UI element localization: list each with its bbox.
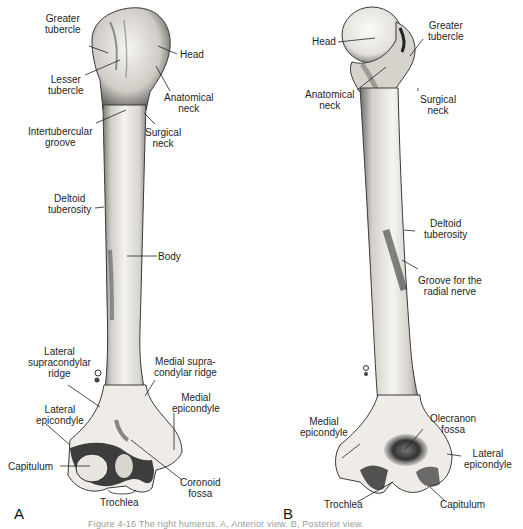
label-anatomical-neck-b: Anatomical neck	[305, 89, 354, 111]
label-lateral-supracondylar-ridge-a: Lateral supracondylar ridge	[28, 346, 91, 379]
label-intertubercular-groove-a: Intertubercular groove	[28, 126, 92, 148]
label-medial-epicondyle-a: Medial epicondyle	[172, 392, 220, 414]
label-trochlea-a: Trochlea	[100, 497, 139, 508]
humerus-anterior	[68, 8, 182, 492]
label-capitulum-b: Capitulum	[440, 499, 485, 510]
label-greater-tubercle-b: Greater tubercle	[428, 20, 464, 42]
humerus-figure: Greater tubercle Head Lesser tubercle An…	[0, 0, 523, 529]
label-head-a: Head	[180, 49, 204, 60]
label-trochlea-b: Trochlea	[324, 499, 363, 510]
figure-caption: Figure 4-16 The right humerus. A, Anteri…	[88, 519, 364, 529]
label-deltoid-tuberosity-b: Deltoid tuberosity	[424, 218, 467, 240]
label-deltoid-tuberosity-a: Deltoid tuberosity	[48, 193, 91, 215]
label-body-a: Body	[158, 251, 181, 262]
label-medial-supracondylar-ridge-a: Medial supra- condylar ridge	[154, 356, 217, 378]
label-lesser-tubercle-a: Lesser tubercle	[48, 74, 84, 96]
label-medial-epicondyle-b: Medial epicondyle	[300, 416, 348, 438]
label-surgical-neck-a: Surgical neck	[145, 127, 181, 149]
label-olecranon-fossa-b: Olecranon fossa	[430, 413, 476, 435]
label-lateral-epicondyle-b: Lateral epicondyle	[464, 448, 512, 470]
label-surgical-neck-b: Surgical neck	[420, 94, 456, 116]
label-anatomical-neck-a: Anatomical neck	[164, 92, 213, 114]
panel-letter-a: A	[14, 505, 24, 522]
label-capitulum-a: Capitulum	[8, 461, 53, 472]
label-coronoid-fossa-a: Coronoid fossa	[180, 477, 221, 499]
label-greater-tubercle-a: Greater tubercle	[45, 13, 81, 35]
label-groove-radial-nerve-b: Groove for the radial nerve	[418, 275, 482, 297]
label-head-b: Head	[312, 36, 336, 47]
label-lateral-epicondyle-a: Lateral epicondyle	[36, 404, 84, 426]
